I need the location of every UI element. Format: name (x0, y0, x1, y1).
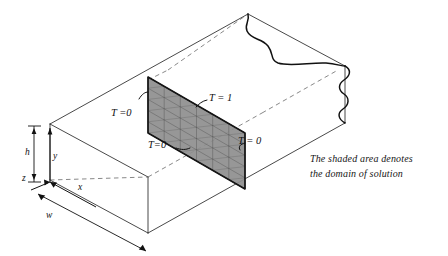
axis-label-x: x (78, 183, 82, 193)
hidden-edge-top-back (168, 14, 248, 70)
figure-caption: The shaded area denotes the domain of so… (310, 152, 413, 181)
duct-diagram-figure: T =0 T = 1 T=0 T = 0 h y z x w The shade… (0, 0, 448, 256)
hidden-edge-bottom-back-right (262, 70, 338, 113)
axis-y-arrow (48, 128, 53, 135)
diagram-canvas (0, 0, 448, 256)
leader-top-t1 (196, 100, 207, 107)
axis-label-y: y (53, 152, 57, 162)
edge-left-top-diagonal (50, 124, 148, 177)
bc-label-left: T =0 (111, 107, 132, 118)
dimension-label-h: h (25, 148, 30, 158)
dimension-label-w: w (46, 211, 52, 221)
edge-bottom-front-left (50, 180, 148, 233)
axis-label-z: z (22, 174, 26, 184)
break-lines (246, 14, 349, 123)
caption-line-2: the domain of solution (310, 167, 413, 182)
axis-z-arrow (44, 180, 50, 186)
bc-label-top: T = 1 (209, 92, 232, 103)
bc-label-right: T = 0 (238, 135, 261, 146)
dim-h-arrow-down (32, 174, 37, 180)
dim-h-arrow-up (32, 128, 37, 134)
bc-label-bottom: T=0 (148, 139, 166, 150)
edge-top-far-right (248, 14, 345, 66)
caption-line-1: The shaded area denotes (310, 152, 413, 167)
leader-left-t0 (139, 92, 148, 99)
axis-x-line (50, 182, 96, 207)
break-line-right (339, 66, 349, 123)
hidden-edge-bottom-back-left (50, 177, 148, 180)
